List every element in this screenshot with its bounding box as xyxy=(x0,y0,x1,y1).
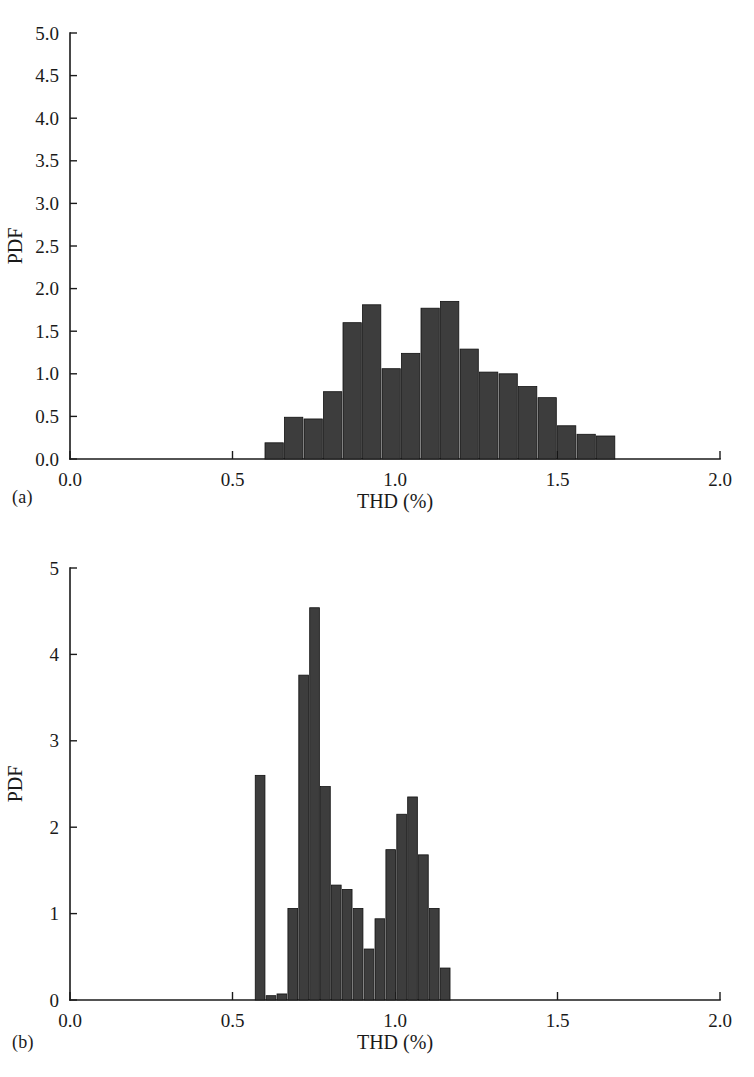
y-tick-label: 3 xyxy=(50,730,60,751)
histogram-bar xyxy=(429,908,439,1000)
chart-panel-a: 0.00.51.01.52.02.53.03.54.04.55.00.00.51… xyxy=(0,0,754,540)
x-axis-title: THD (%) xyxy=(357,1031,433,1054)
y-tick-label: 1.5 xyxy=(35,321,59,342)
panel-label-b: (b) xyxy=(12,1032,34,1053)
x-tick-label: 1.5 xyxy=(546,1010,570,1031)
bar-group xyxy=(255,608,450,1000)
histogram-bar xyxy=(324,392,342,459)
histogram-bar xyxy=(460,349,478,459)
histogram-bar xyxy=(363,305,381,459)
histogram-bar xyxy=(343,323,361,459)
y-tick-label: 4.0 xyxy=(35,108,59,129)
y-tick-label: 0.0 xyxy=(35,449,59,470)
histogram-bar xyxy=(382,369,400,459)
x-tick-label: 1.5 xyxy=(546,469,570,490)
histogram-bar xyxy=(419,855,429,1000)
x-axis-title: THD (%) xyxy=(357,490,433,513)
histogram-bar xyxy=(277,994,287,1000)
figure-page: 0.00.51.01.52.02.53.03.54.04.55.00.00.51… xyxy=(0,0,754,1077)
x-tick-label: 1.0 xyxy=(383,469,407,490)
histogram-bar xyxy=(255,775,265,1000)
histogram-bar xyxy=(499,374,517,459)
histogram-a: 0.00.51.01.52.02.53.03.54.04.55.00.00.51… xyxy=(0,0,754,540)
histogram-bar xyxy=(265,443,283,459)
y-tick-label: 1 xyxy=(50,903,60,924)
y-tick-label: 2 xyxy=(50,817,60,838)
x-tick-label: 0.0 xyxy=(58,469,82,490)
histogram-bar xyxy=(441,301,459,459)
x-tick-label: 2.0 xyxy=(708,469,732,490)
histogram-bar xyxy=(321,787,331,1000)
histogram-bar xyxy=(285,417,303,459)
x-tick-label: 0.5 xyxy=(221,1010,245,1031)
histogram-bar xyxy=(375,919,385,1000)
y-axis-title: PDF xyxy=(4,766,26,803)
histogram-bar xyxy=(408,797,418,1000)
y-tick-label: 4 xyxy=(50,644,60,665)
y-tick-label: 2.5 xyxy=(35,236,59,257)
bar-group xyxy=(265,301,615,459)
histogram-bar xyxy=(266,996,276,1000)
y-tick-label: 0 xyxy=(50,990,60,1011)
y-tick-label: 3.0 xyxy=(35,193,59,214)
y-tick-label: 5.0 xyxy=(35,23,59,44)
histogram-bar xyxy=(538,398,556,459)
histogram-bar xyxy=(480,372,498,459)
histogram-bar xyxy=(577,434,595,459)
y-axis-title: PDF xyxy=(4,228,26,265)
histogram-bar xyxy=(304,419,322,459)
histogram-bar xyxy=(342,889,352,1000)
histogram-bar xyxy=(558,426,576,459)
x-tick-label: 2.0 xyxy=(708,1010,732,1031)
y-tick-label: 1.0 xyxy=(35,363,59,384)
histogram-bar xyxy=(331,885,341,1000)
histogram-bar xyxy=(299,675,309,1000)
histogram-bar xyxy=(310,608,320,1000)
chart-panel-b: 0123450.00.51.01.52.0THD (%)PDF xyxy=(0,540,754,1077)
y-tick-label: 2.0 xyxy=(35,278,59,299)
histogram-bar xyxy=(353,908,363,1000)
histogram-bar xyxy=(364,949,374,1000)
histogram-bar xyxy=(440,968,450,1000)
y-tick-label: 3.5 xyxy=(35,150,59,171)
histogram-bar xyxy=(386,850,396,1000)
x-tick-label: 0.5 xyxy=(221,469,245,490)
histogram-bar xyxy=(402,353,420,459)
panel-label-a: (a) xyxy=(12,487,33,508)
x-tick-label: 0.0 xyxy=(58,1010,82,1031)
y-tick-label: 5 xyxy=(50,558,60,579)
y-tick-label: 0.5 xyxy=(35,406,59,427)
y-tick-label: 4.5 xyxy=(35,65,59,86)
histogram-bar xyxy=(288,908,298,1000)
histogram-bar xyxy=(421,308,439,459)
histogram-bar xyxy=(397,814,407,1000)
x-tick-label: 1.0 xyxy=(383,1010,407,1031)
histogram-bar xyxy=(519,387,537,459)
histogram-bar xyxy=(597,436,615,459)
histogram-b: 0123450.00.51.01.52.0THD (%)PDF xyxy=(0,540,754,1077)
